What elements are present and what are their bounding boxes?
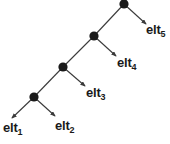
- tree-graphics: [0, 0, 170, 144]
- leaf-label-elt1: elt1: [3, 121, 22, 134]
- leaf-label-elt4-subscript: 4: [132, 62, 137, 72]
- tree-node-n2: [58, 62, 67, 71]
- spine-edge-n2-n3: [63, 36, 94, 67]
- tree-diagram: elt1 elt2 elt3 elt4 elt5: [0, 0, 170, 144]
- leaf-label-elt3-base: elt: [86, 85, 101, 100]
- leaf-label-elt2-subscript: 2: [70, 125, 75, 135]
- leaf-label-elt5-base: elt: [146, 22, 161, 37]
- leaf-label-elt2: elt2: [55, 119, 74, 132]
- leaf-label-elt1-subscript: 1: [18, 127, 23, 137]
- spine-edge-n3-n4: [94, 4, 124, 36]
- tree-node-n1: [29, 92, 38, 101]
- leaf-label-elt3-subscript: 3: [101, 92, 106, 102]
- leaf-label-elt1-base: elt: [3, 120, 18, 135]
- leaf-label-elt3: elt3: [86, 86, 105, 99]
- leaf-label-elt4: elt4: [117, 56, 136, 69]
- leaf-label-elt5-subscript: 5: [161, 29, 166, 39]
- leaf-label-elt2-base: elt: [55, 118, 70, 133]
- leaf-label-elt4-base: elt: [117, 55, 132, 70]
- spine-edge-n1-n2: [34, 67, 63, 97]
- leaf-label-elt5: elt5: [146, 23, 165, 36]
- tree-node-n3: [89, 31, 98, 40]
